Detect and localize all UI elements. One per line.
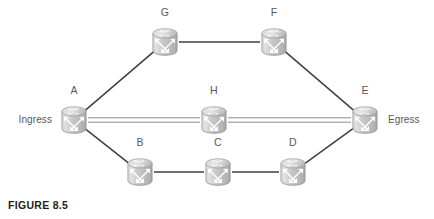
router-icon-g[interactable] [153, 29, 177, 56]
figure-caption: FIGURE 8.5 [8, 199, 68, 211]
router-icon-h[interactable] [202, 107, 226, 134]
node-label-h: H [210, 85, 218, 96]
egress-label: Egress [388, 115, 420, 125]
link-h-e [228, 118, 351, 122]
link-a-b [85, 129, 129, 164]
router-icon-b[interactable] [128, 159, 152, 186]
router-icon-e[interactable] [353, 107, 377, 134]
link-strand-1 [304, 128, 353, 164]
node-label-g: G [161, 7, 169, 18]
network-topology-canvas [0, 0, 434, 219]
link-a-h [88, 118, 200, 122]
node-label-b: B [136, 137, 143, 148]
node-label-d: D [289, 137, 297, 148]
link-d-e [304, 128, 353, 164]
node-label-e: E [361, 85, 368, 96]
ingress-label: Ingress [19, 115, 53, 125]
router-icon-c[interactable] [206, 159, 230, 186]
nodes-layer [62, 29, 377, 186]
router-icon-f[interactable] [262, 29, 286, 56]
link-strand-1 [85, 129, 129, 164]
node-label-a: A [70, 85, 77, 96]
link-strand-1 [85, 51, 155, 111]
link-f-e [285, 51, 355, 111]
router-icon-d[interactable] [281, 159, 305, 186]
figure-8-5-network-diagram: ABCDEFGHIngressEgress FIGURE 8.5 [0, 0, 434, 219]
link-a-g [85, 51, 155, 111]
node-label-c: C [214, 137, 222, 148]
router-icon-a[interactable] [62, 107, 86, 134]
link-strand-1 [285, 51, 355, 111]
node-label-f: F [271, 7, 278, 18]
